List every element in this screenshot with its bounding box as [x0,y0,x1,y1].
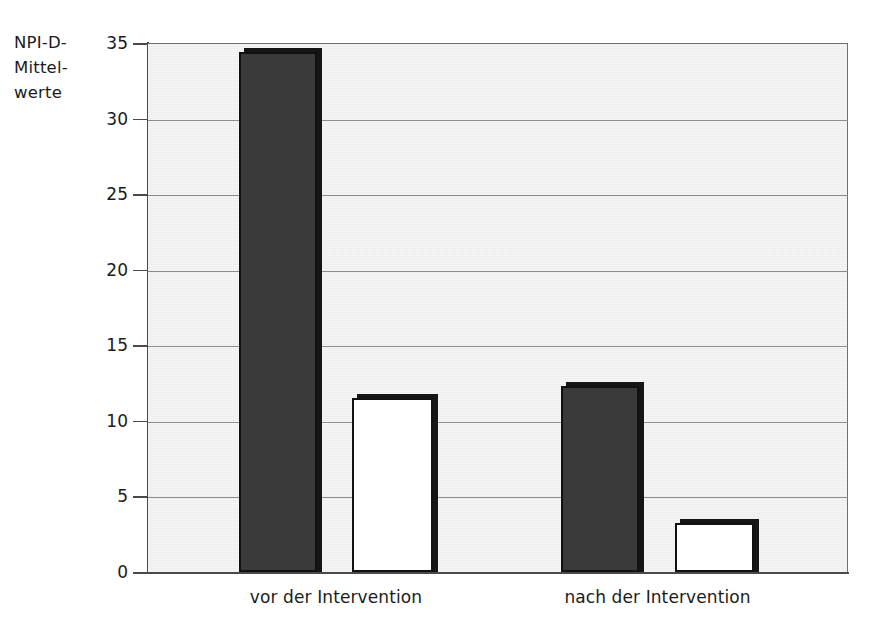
y-tick-mark [133,345,148,347]
y-tick-mark [133,43,148,45]
y-tick-label: 5 [88,486,128,506]
bar-light-group-0 [352,398,433,572]
y-tick-label: 10 [88,411,128,431]
y-tick-label: 25 [88,184,128,204]
chart-figure: NPI-D- Mittel- werte 05101520253035 vor … [0,0,874,639]
y-tick-label: 15 [88,335,128,355]
category-label: nach der Intervention [508,587,808,607]
y-tick-label: 0 [88,562,128,582]
y-tick-mark [133,119,148,121]
y-tick-mark [133,421,148,423]
bar-dark-group-1 [561,386,639,572]
y-tick-mark [133,496,148,498]
y-tick-label: 35 [88,33,128,53]
y-tick-mark [133,270,148,272]
bar-dark-group-0 [239,52,317,572]
y-tick-mark [133,194,148,196]
y-axis-ticks: 05101520253035 [78,0,128,639]
y-tick-mark [133,572,148,574]
y-tick-label: 20 [88,260,128,280]
y-tick-label: 30 [88,109,128,129]
category-label: vor der Intervention [186,587,486,607]
bar-light-group-1 [675,523,754,572]
